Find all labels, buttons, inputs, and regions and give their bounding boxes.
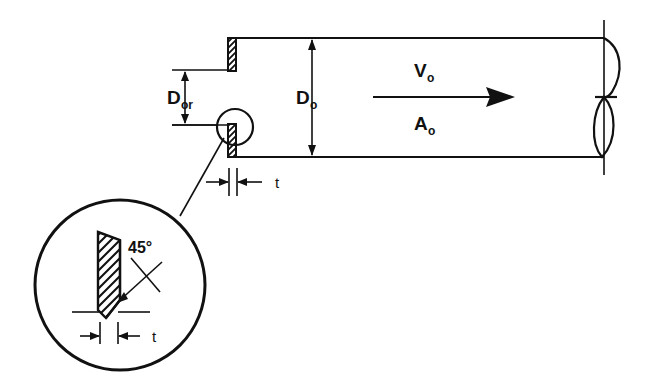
d-or-arrow-up [181,71,189,81]
orifice-diagram-figure: D or D o V o A o [0,0,649,391]
detail-t-label: t [152,328,157,345]
detail-t-arrow-left-head [90,332,100,340]
detail-t-arrow-right-head [118,332,128,340]
velocity-label-base: V [414,60,427,81]
d-or-label-subscript: or [181,98,193,112]
area-label-subscript: o [428,124,435,138]
pipe-break-symbol [594,20,620,175]
flow-annotation: V o A o [373,60,515,138]
bevel-angle-label: 45° [128,239,152,256]
diagram-canvas: D or D o V o A o [0,0,649,391]
d-o-arrow-down [308,145,316,156]
dimension-t-main: t [206,168,280,196]
velocity-label-subscript: o [427,71,434,85]
dimension-d-or: D or [167,70,228,125]
flow-direction-arrow-head [486,87,515,107]
orifice-plate-upper [228,38,236,71]
d-o-arrow-up [308,39,316,50]
d-o-label-subscript: o [310,98,317,112]
area-label-base: A [414,113,428,134]
break-curve-upper [604,38,620,97]
detail-leader-line [180,138,224,216]
dimension-d-o: D o [296,39,317,156]
t-main-arrow-left-head [219,178,229,186]
detail-view: 45° t [35,200,205,370]
d-or-label-base: D [167,87,181,108]
orifice-plate-lower [228,124,236,157]
t-main-arrow-right-head [237,178,247,186]
orifice-plate [228,38,236,157]
d-or-arrow-down [181,114,189,124]
t-main-label: t [275,174,280,191]
d-o-label-base: D [296,87,310,108]
